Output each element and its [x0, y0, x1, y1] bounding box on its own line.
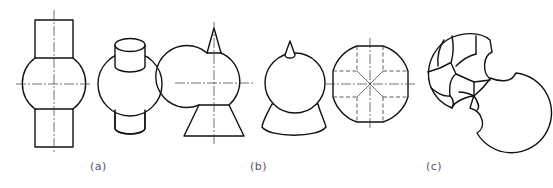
- caption-a: (a): [90, 160, 107, 173]
- figure-a-isometric: [98, 39, 162, 135]
- figure-c-isometric: [428, 34, 551, 153]
- figure-b-isometric: [262, 41, 326, 135]
- figure-a-front-view: [16, 10, 92, 152]
- caption-c: (c): [426, 160, 442, 173]
- figure-b-front-view: [156, 22, 253, 146]
- technical-drawing: [0, 0, 553, 188]
- caption-b: (b): [250, 160, 267, 173]
- figure-b-top-view: [325, 38, 416, 130]
